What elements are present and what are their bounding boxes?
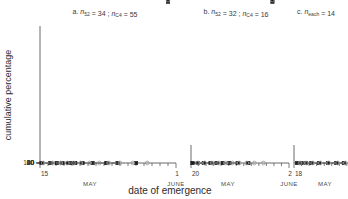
x-start-label-c: 18: [295, 170, 303, 177]
data-point-b-n52: [191, 161, 195, 165]
panel-title-b: b. n52 = 32 ; nC4 = 16: [204, 8, 269, 18]
x-start-label-a: 15: [41, 170, 49, 177]
panel-title-c: c. neach = 14: [297, 8, 335, 17]
panel-title-a: a. n52 = 34 ; nC4 = 55: [73, 8, 138, 18]
panel-letter-a: a.: [73, 8, 81, 15]
x-month-start-a: MAY: [83, 181, 97, 187]
x-axis-title: date of emergence: [128, 185, 212, 196]
figure-container: 1020406080100cumulative percentagea. n52…: [0, 0, 348, 199]
panel-label-part: = 32 ;: [221, 10, 243, 17]
y-tick-label: 100: [23, 159, 34, 166]
x-end-label-a: 1: [175, 170, 179, 177]
panel-label-part: = 55: [122, 11, 138, 18]
panel-c: c. neach = 1418MAY: [294, 8, 348, 187]
panel-label-part: = 16: [253, 11, 269, 18]
x-end-label-b: 2: [288, 170, 292, 177]
panel-a: a. n52 = 34 ; nC4 = 55151MAYJUNE: [40, 0, 185, 187]
x-month-start-b: MAY: [221, 181, 235, 187]
y-axis-title: cumulative percentage: [3, 50, 13, 141]
x-month-end-b: JUNE: [280, 181, 297, 187]
panel-letter-b: b.: [204, 8, 212, 15]
panel-label-part: = 14: [319, 10, 335, 17]
y-axis: 1020406080100: [23, 26, 40, 166]
panel-label-part: each: [308, 11, 319, 17]
emergence-chart: 1020406080100cumulative percentagea. n52…: [0, 0, 348, 199]
panel-letter-c: c.: [297, 8, 304, 15]
x-month-start-c: MAY: [318, 181, 332, 187]
panel-b: b. n52 = 32 ; nC4 = 16202MAYJUNE: [191, 0, 298, 187]
panel-label-part: = 34 ;: [90, 10, 112, 17]
x-start-label-b: 20: [192, 170, 200, 177]
